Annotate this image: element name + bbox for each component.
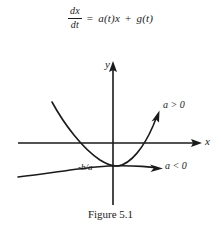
figure-plot: y x a > 0 a < 0 -b/a xyxy=(0,38,221,210)
equation-term-a: a(t)x xyxy=(98,12,120,24)
curve-label-a-negative: a < 0 xyxy=(165,160,187,171)
y-axis-label: y xyxy=(105,58,110,70)
curve-a-positive-path xyxy=(52,102,157,166)
fraction-numerator: dx xyxy=(68,6,82,17)
curve-label-a-positive: a > 0 xyxy=(163,99,185,110)
equation-row: dx dt = a(t)x + g(t) xyxy=(68,6,153,30)
fraction-denominator: dt xyxy=(69,20,81,31)
y-intercept-label: -b/a xyxy=(78,162,93,172)
y-axis xyxy=(109,61,117,205)
equals-sign: = xyxy=(87,12,93,24)
differential-equation: dx dt = a(t)x + g(t) xyxy=(0,4,221,30)
derivative-fraction: dx dt xyxy=(68,6,82,30)
curve-a-negative-arrowhead xyxy=(150,165,163,173)
x-axis xyxy=(18,139,202,147)
curve-a-positive xyxy=(52,102,160,166)
figure-page: dx dt = a(t)x + g(t) xyxy=(0,0,221,227)
plot-svg xyxy=(0,38,221,210)
x-axis-label: x xyxy=(205,135,210,147)
plus-sign: + xyxy=(125,12,131,24)
figure-caption: Figure 5.1 xyxy=(0,208,221,220)
equation-term-g: g(t) xyxy=(136,12,153,24)
